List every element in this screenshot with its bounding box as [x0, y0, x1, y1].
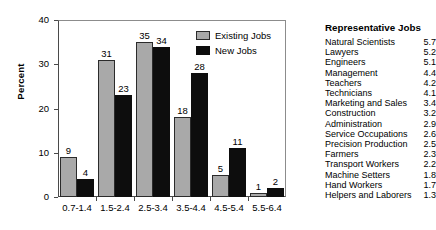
job-row: Machine Setters1.8	[325, 170, 436, 180]
bar-group: 3534	[134, 20, 172, 197]
bar-new-jobs[interactable]: 23	[115, 95, 132, 197]
legend-item-existing-jobs: Existing Jobs	[196, 30, 271, 41]
job-name: Service Occupations	[325, 129, 408, 139]
job-row: Precision Production2.5	[325, 139, 436, 149]
x-axis-tick-label: 2.5-3.4	[134, 202, 172, 213]
x-axis-tick-label: 1.5-2.4	[96, 202, 134, 213]
y-axis-tick-label: 20	[38, 103, 49, 114]
bar-value-label: 1	[256, 181, 261, 192]
legend-swatch-existing-jobs	[196, 31, 210, 40]
y-axis-tick-label: 0	[44, 191, 49, 202]
job-name: Engineers	[325, 57, 366, 67]
job-value: 2.6	[419, 129, 436, 139]
bar-existing-jobs[interactable]: 9	[60, 157, 77, 197]
legend-label-existing-jobs: Existing Jobs	[215, 30, 271, 41]
job-value: 5.2	[419, 47, 436, 57]
job-row: Administration2.9	[325, 119, 436, 129]
bar-value-label: 18	[177, 105, 188, 116]
job-row: Construction3.2	[325, 108, 436, 118]
legend-swatch-new-jobs	[196, 46, 210, 55]
representative-jobs-list: Natural Scientists5.7Lawyers5.2Engineers…	[325, 37, 436, 200]
x-axis-tick-label: 5.5-6.4	[248, 202, 286, 213]
x-axis-tick-label: 3.5-4.4	[172, 202, 210, 213]
job-value: 5.1	[419, 57, 436, 67]
x-axis-tick-mark	[96, 197, 97, 201]
bar-value-label: 5	[218, 163, 223, 174]
y-axis-tick-label: 30	[38, 58, 49, 69]
bar-pair: 3534	[134, 20, 172, 197]
job-row: Technicians4.1	[325, 88, 436, 98]
legend-label-new-jobs: New Jobs	[215, 45, 257, 56]
bar-value-label: 34	[156, 35, 167, 46]
bar-value-label: 11	[233, 136, 243, 147]
job-row: Service Occupations2.6	[325, 129, 436, 139]
y-axis-tick-label: 10	[38, 147, 49, 158]
job-name: Hand Workers	[325, 180, 382, 190]
job-value: 4.2	[419, 78, 436, 88]
bar-value-label: 31	[101, 48, 112, 59]
job-value: 1.7	[419, 180, 436, 190]
bar-new-jobs[interactable]: 4	[77, 179, 94, 197]
job-value: 2.5	[419, 139, 436, 149]
bar-value-label: 4	[83, 167, 88, 178]
representative-jobs-panel: Representative Jobs Natural Scientists5.…	[325, 22, 436, 200]
job-value: 1.8	[419, 170, 436, 180]
job-row: Lawyers5.2	[325, 47, 436, 57]
job-name: Precision Production	[325, 139, 408, 149]
job-name: Machine Setters	[325, 170, 390, 180]
y-axis-tick-mark	[54, 197, 58, 198]
job-value: 2.2	[419, 159, 436, 169]
job-value: 3.2	[419, 108, 436, 118]
job-name: Natural Scientists	[325, 37, 395, 47]
x-axis-tick-mark	[210, 197, 211, 201]
legend-item-new-jobs: New Jobs	[196, 45, 271, 56]
job-row: Farmers2.3	[325, 149, 436, 159]
job-name: Management	[325, 68, 378, 78]
job-name: Administration	[325, 119, 382, 129]
job-row: Teachers4.2	[325, 78, 436, 88]
bar-value-label: 35	[139, 30, 150, 41]
representative-jobs-title: Representative Jobs	[325, 22, 436, 33]
bar-existing-jobs[interactable]: 5	[212, 175, 229, 197]
x-axis-tick-mark	[134, 197, 135, 201]
job-name: Teachers	[325, 78, 362, 88]
job-value: 4.1	[419, 88, 436, 98]
bar-existing-jobs[interactable]: 18	[174, 117, 191, 197]
x-axis-tick-mark	[248, 197, 249, 201]
x-axis-tick-mark	[172, 197, 173, 201]
bar-chart-panel: Percent 010203040 9431233534182851112 0.…	[0, 0, 292, 230]
bar-value-label: 28	[194, 61, 205, 72]
job-name: Marketing and Sales	[325, 98, 407, 108]
chart-figure: Percent 010203040 9431233534182851112 0.…	[0, 0, 436, 230]
job-name: Technicians	[325, 88, 372, 98]
job-row: Management4.4	[325, 68, 436, 78]
bar-new-jobs[interactable]: 34	[153, 47, 170, 197]
bar-existing-jobs[interactable]: 1	[250, 193, 267, 197]
bar-existing-jobs[interactable]: 31	[98, 60, 115, 197]
bar-new-jobs[interactable]: 11	[229, 148, 246, 197]
bar-new-jobs[interactable]: 28	[191, 73, 208, 197]
job-row: Natural Scientists5.7	[325, 37, 436, 47]
job-row: Transport Workers2.2	[325, 159, 436, 169]
job-value: 2.3	[419, 149, 436, 159]
job-row: Engineers5.1	[325, 57, 436, 67]
chart-legend: Existing Jobs New Jobs	[196, 30, 271, 56]
bar-value-label: 9	[66, 145, 71, 156]
bar-existing-jobs[interactable]: 35	[136, 42, 153, 197]
bar-pair: 94	[58, 20, 96, 197]
bar-group: 3123	[96, 20, 134, 197]
job-name: Helpers and Laborers	[325, 190, 412, 200]
job-name: Construction	[325, 108, 376, 118]
bar-value-label: 23	[118, 83, 129, 94]
x-axis-tick-label: 0.7-1.4	[58, 202, 96, 213]
y-axis-label: Percent	[15, 47, 26, 117]
bar-value-label: 2	[273, 176, 278, 187]
job-name: Lawyers	[325, 47, 359, 57]
bar-group: 94	[58, 20, 96, 197]
bar-new-jobs[interactable]: 2	[267, 188, 284, 197]
job-value: 5.7	[419, 37, 436, 47]
job-row: Hand Workers1.7	[325, 180, 436, 190]
job-row: Marketing and Sales3.4	[325, 98, 436, 108]
x-axis-tick-label: 4.5-5.4	[210, 202, 248, 213]
job-value: 2.9	[419, 119, 436, 129]
